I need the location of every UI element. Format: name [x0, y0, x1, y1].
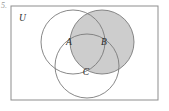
- set-label-b: B: [101, 37, 107, 47]
- universe-set-label: U: [19, 13, 27, 23]
- set-label-a: A: [65, 37, 72, 47]
- set-label-c: C: [83, 67, 90, 77]
- venn-diagram-figure: 5. U A B C: [0, 0, 169, 111]
- venn-diagram-canvas: U A B C: [0, 0, 169, 111]
